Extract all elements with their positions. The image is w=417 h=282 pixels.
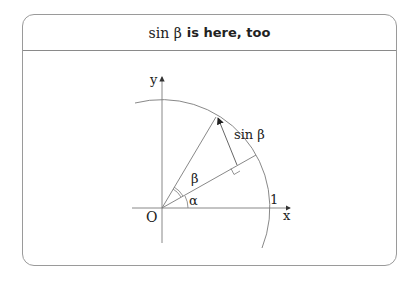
alpha-arc — [185, 196, 188, 208]
origin-label: O — [146, 209, 157, 225]
sin-beta-label: sin β — [234, 127, 265, 142]
beta-label: β — [191, 171, 199, 186]
x-axis-label: x — [283, 208, 291, 223]
y-axis-label: y — [149, 72, 158, 87]
unit-label: 1 — [270, 192, 278, 207]
beta-arc — [174, 187, 183, 196]
alpha-label: α — [189, 193, 198, 208]
beta-arc-inner — [173, 189, 181, 197]
unit-circle-diagram: y x O 1 α β sin β — [0, 0, 417, 282]
alpha-ray — [162, 155, 256, 208]
right-angle-marker — [231, 169, 240, 175]
unit-circle-arc — [135, 100, 270, 248]
